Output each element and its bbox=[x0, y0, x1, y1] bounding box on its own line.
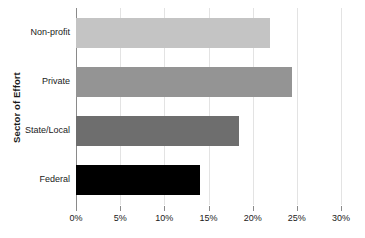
tick-mark-15% bbox=[209, 206, 210, 211]
x-tick-label-10%: 10% bbox=[144, 213, 184, 223]
bar-state-local[interactable] bbox=[76, 116, 239, 146]
category-label-non-profit: Non-profit bbox=[0, 27, 70, 37]
gridline-25% bbox=[297, 8, 298, 205]
x-tick-label-30%: 30% bbox=[321, 213, 361, 223]
y-axis-title: Sector of Effort bbox=[11, 48, 22, 168]
category-label-state-local: State/Local bbox=[0, 125, 70, 135]
bar-chart: Sector of Effort Non-profitPrivateState/… bbox=[0, 0, 365, 238]
bar-private[interactable] bbox=[76, 67, 292, 97]
x-tick-label-5%: 5% bbox=[100, 213, 140, 223]
tick-mark-30% bbox=[341, 206, 342, 211]
gridline-30% bbox=[341, 8, 342, 205]
tick-mark-0% bbox=[76, 206, 77, 211]
category-label-private: Private bbox=[0, 76, 70, 86]
bar-non-profit[interactable] bbox=[76, 18, 270, 48]
bar-federal[interactable] bbox=[76, 165, 200, 195]
x-tick-label-25%: 25% bbox=[277, 213, 317, 223]
tick-mark-20% bbox=[253, 206, 254, 211]
x-tick-label-15%: 15% bbox=[189, 213, 229, 223]
x-tick-label-20%: 20% bbox=[233, 213, 273, 223]
tick-mark-5% bbox=[120, 206, 121, 211]
x-tick-label-0%: 0% bbox=[56, 213, 96, 223]
plot-area bbox=[76, 8, 341, 205]
tick-mark-25% bbox=[297, 206, 298, 211]
tick-mark-10% bbox=[164, 206, 165, 211]
category-label-federal: Federal bbox=[0, 174, 70, 184]
